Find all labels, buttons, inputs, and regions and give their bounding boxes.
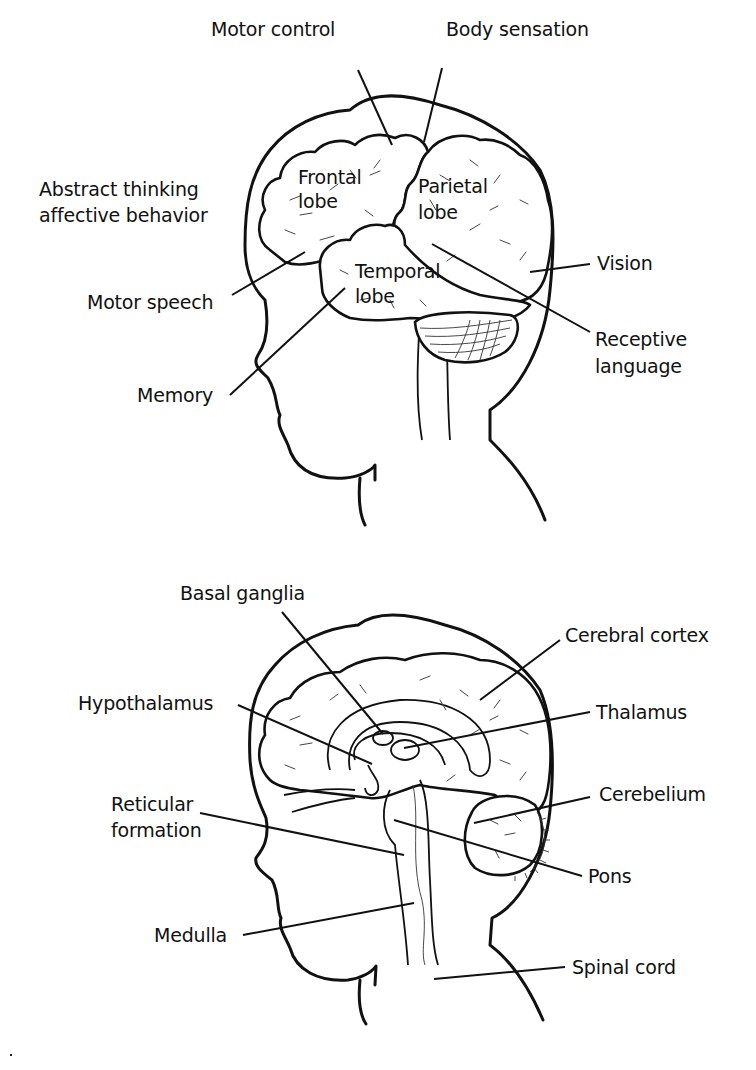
leader-spinal-cord xyxy=(434,967,565,979)
label-memory: Memory xyxy=(137,383,213,407)
cerebellum xyxy=(465,796,542,875)
label-thalamus: Thalamus xyxy=(596,700,687,724)
label-motor-speech: Motor speech xyxy=(87,290,213,314)
neck-back-line xyxy=(359,478,365,525)
label-cerebelium: Cerebelium xyxy=(599,782,706,806)
leader-motor-speech xyxy=(232,252,305,295)
label-pons: Pons xyxy=(588,864,632,888)
optic-nerve-2 xyxy=(292,798,355,812)
leader-motor-control xyxy=(358,70,392,145)
label-formation: formation xyxy=(111,818,202,842)
label-vision: Vision xyxy=(597,251,653,275)
label-cerebral-cortex: Cerebral cortex xyxy=(565,623,709,647)
label-temporal-lobe-2: lobe xyxy=(355,284,395,308)
label-parietal-lobe-1: Parietal xyxy=(418,174,488,198)
label-affective-behavior: affective behavior xyxy=(39,203,208,227)
label-receptive: Receptive xyxy=(595,327,687,351)
neck-back-line xyxy=(359,980,366,1024)
label-reticular: Reticular xyxy=(111,792,193,816)
leader-memory xyxy=(230,288,345,395)
lateral-brain-diagram: Motor control Body sensation Abstract th… xyxy=(0,0,756,540)
leader-medulla xyxy=(243,903,414,935)
stray-dot xyxy=(10,1054,12,1056)
sagittal-brain-diagram: Basal ganglia Cerebral cortex Hypothalam… xyxy=(0,540,756,1070)
label-basal-ganglia: Basal ganglia xyxy=(180,581,305,605)
label-spinal-cord: Spinal cord xyxy=(572,955,676,979)
label-temporal-lobe-1: Temporal xyxy=(355,259,440,283)
label-language: language xyxy=(595,354,682,378)
label-hypothalamus: Hypothalamus xyxy=(78,691,213,715)
label-motor-control: Motor control xyxy=(211,17,335,41)
label-abstract-thinking: Abstract thinking xyxy=(39,177,199,201)
label-medulla: Medulla xyxy=(154,923,227,947)
label-frontal-lobe-1: Frontal xyxy=(298,165,362,189)
brainstem-right xyxy=(420,780,438,965)
spinal-column-texture xyxy=(413,785,425,965)
leader-reticular-formation xyxy=(200,813,404,855)
label-parietal-lobe-2: lobe xyxy=(418,200,458,224)
label-body-sensation: Body sensation xyxy=(446,17,589,41)
label-frontal-lobe-2: lobe xyxy=(298,189,338,213)
brainstem-left xyxy=(384,790,408,965)
